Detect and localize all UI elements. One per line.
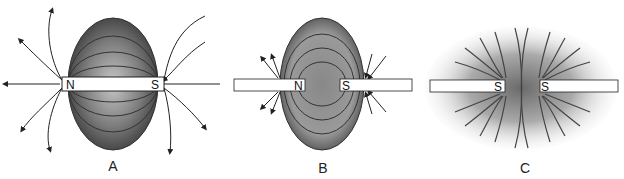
- pole-label: N: [294, 79, 303, 93]
- magnetic-field-diagram: N S N S: [0, 0, 624, 179]
- panel-b: N S: [234, 18, 412, 150]
- pole-label: S: [342, 79, 350, 93]
- pole-label: S: [494, 80, 502, 94]
- panel-a: N S: [5, 10, 220, 152]
- panel-a-caption: A: [108, 158, 117, 174]
- pole-label: S: [151, 78, 159, 92]
- panel-c: S S: [425, 26, 618, 150]
- pole-label: S: [541, 80, 549, 94]
- pole-label: N: [66, 78, 75, 92]
- panel-c-caption: C: [520, 160, 530, 176]
- panel-b-caption: B: [318, 160, 327, 176]
- diagram-canvas: N S N S: [0, 0, 624, 179]
